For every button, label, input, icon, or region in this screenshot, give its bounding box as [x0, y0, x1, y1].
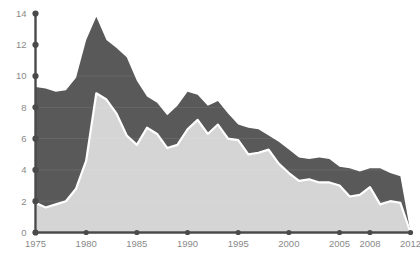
x-axis-tick-label: 1990 — [177, 238, 198, 249]
x-axis-tick — [84, 230, 89, 235]
y-axis-tick — [32, 167, 38, 173]
y-axis-tick — [32, 198, 38, 204]
y-axis-tick-label: 2 — [21, 196, 26, 207]
x-axis-tick — [337, 230, 342, 235]
y-axis-tick-label: 6 — [21, 133, 26, 144]
x-axis-tick — [408, 230, 413, 235]
x-axis-tick — [236, 230, 241, 235]
y-axis-tick-label: 10 — [16, 70, 27, 81]
chart-canvas: 0246810121419751980198519901995200020052… — [0, 0, 420, 259]
x-axis-tick — [367, 230, 372, 235]
y-axis-tick — [32, 136, 38, 142]
y-axis-tick — [32, 104, 38, 110]
stacked-area-chart: 0246810121419751980198519901995200020052… — [0, 0, 420, 259]
x-axis-tick-label: 2000 — [278, 238, 299, 249]
x-axis-tick-label: 2008 — [359, 238, 380, 249]
y-axis-tick — [32, 10, 38, 16]
y-axis-tick-label: 8 — [21, 102, 26, 113]
y-axis-tick-label: 14 — [16, 8, 27, 19]
y-axis-tick-label: 4 — [21, 164, 26, 175]
y-axis-tick-label: 12 — [16, 39, 27, 50]
x-axis-tick-label: 2012 — [400, 238, 420, 249]
x-axis-tick — [134, 230, 139, 235]
x-axis-tick-label: 1995 — [228, 238, 249, 249]
y-axis-tick — [32, 73, 38, 79]
x-axis-tick — [185, 230, 190, 235]
x-axis-tick-label: 1980 — [76, 238, 97, 249]
x-axis-tick-label: 2005 — [329, 238, 350, 249]
x-axis-tick-label: 1985 — [126, 238, 147, 249]
x-axis-tick-label: 1975 — [25, 238, 46, 249]
x-axis-tick — [33, 230, 38, 235]
y-axis-tick — [32, 42, 38, 48]
x-axis-tick — [286, 230, 291, 235]
y-axis-tick-label: 0 — [21, 227, 26, 238]
